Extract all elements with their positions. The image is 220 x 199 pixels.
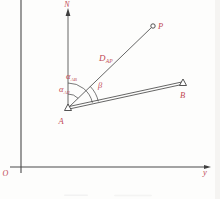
page-edge-shading — [215, 0, 220, 199]
scan-artifact — [114, 195, 152, 197]
label-alpha-ap-sub: AP — [63, 90, 70, 95]
label-distance-ap-base: D — [98, 53, 106, 63]
diagram-canvas: N P A B O y β DAP αAB αAP — [0, 0, 220, 199]
y-axis-label: y — [202, 167, 207, 177]
origin-label: O — [3, 169, 9, 178]
label-distance-ap-sub: AP — [105, 58, 113, 64]
scan-artifact — [64, 195, 88, 197]
baseline-ab-upper — [68, 82, 183, 107]
label-p: P — [157, 21, 163, 31]
label-beta: β — [97, 80, 103, 90]
label-a: A — [57, 116, 64, 126]
arc-alpha-ab — [68, 83, 92, 103]
survey-polar-diagram: N P A B O y β DAP αAB αAP — [0, 0, 220, 199]
label-b: B — [180, 90, 185, 100]
north-arrowhead — [66, 8, 71, 16]
line-ap — [68, 27, 152, 108]
label-alpha-ab: αAB — [66, 71, 77, 82]
marker-a-triangle — [65, 104, 72, 111]
baseline-ab-lower — [68, 84, 183, 109]
marker-p-circle — [151, 24, 155, 28]
label-alpha-ab-sub: AB — [70, 77, 77, 82]
north-label: N — [63, 0, 70, 9]
label-distance-ap: DAP — [98, 53, 113, 64]
